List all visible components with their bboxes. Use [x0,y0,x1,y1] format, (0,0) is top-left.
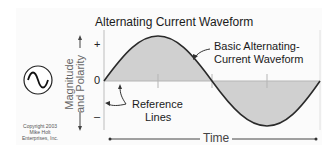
y-axis-label: Magnitude and Polarity [64,44,94,124]
copyright-line3: Enterprises, Inc. [18,135,62,141]
reference-annotation-line2: Lines [145,111,171,124]
ac-source-icon [24,66,52,94]
y-axis-label-line2: and Polarity [75,44,86,124]
y-tick-plus: + [94,38,100,50]
y-tick-minus: – [94,110,100,122]
reference-annotation-line1: Reference [132,98,183,111]
diagram-title: Alternating Current Waveform [95,15,253,29]
y-tick-zero: 0 [94,74,100,86]
x-axis-label: Time [200,131,232,145]
waveform-annotation-line2: Current Waveform [214,53,303,66]
copyright-notice: Copyright 2003 Mike Holt Enterprises, In… [18,123,62,141]
waveform-annotation-line1: Basic Alternating- [214,40,300,53]
